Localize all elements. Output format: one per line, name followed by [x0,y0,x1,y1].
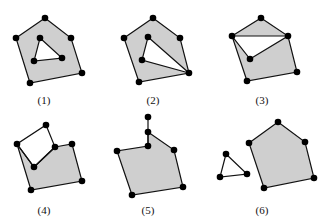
figure-label-4: (4) [38,204,51,216]
vertex-dot [223,151,230,158]
figure-label-1: (1) [38,94,51,106]
vertex-dot [31,164,38,171]
figure-label-5: (5) [142,204,155,216]
vertex-dot [186,70,193,77]
vertex-dot [59,55,66,62]
vertex-dot [79,178,86,185]
vertex-dot [145,114,152,121]
figure-1-region [16,18,82,83]
figure-5-region [117,132,183,195]
vertex-dot [275,119,282,126]
vertex-dot [69,141,76,148]
vertex-dot [42,15,49,22]
vertex-dot [217,174,224,181]
vertex-dot [145,143,152,150]
vertex-dot [27,80,34,87]
vertex-dot [258,15,265,22]
vertex-dot [150,15,157,22]
vertex-dot [229,33,236,40]
polygon-diagram [0,0,328,224]
vertex-dot [247,56,254,63]
figure-2-region [124,18,189,82]
vertex-dot [171,147,178,154]
vertex-dot [261,185,268,192]
vertex-dot [145,129,152,136]
vertex-dot [121,35,128,42]
vertex-dot [52,144,59,151]
vertex-dot [145,34,152,41]
vertex-dot [285,33,292,40]
vertex-dot [79,70,86,77]
vertex-dot [244,171,251,178]
vertex-dot [294,69,301,76]
vertex-dot [180,184,187,191]
vertex-dot [246,140,253,147]
figure-6-region [249,122,314,188]
vertex-dot [14,141,21,148]
vertex-dot [244,78,251,85]
vertex-dot [136,79,143,86]
vertex-dot [13,35,20,42]
vertex-dot [43,122,50,129]
figure-label-6: (6) [256,204,269,216]
vertex-dot [31,58,38,65]
vertex-dot [129,192,136,199]
vertex-dot [68,35,75,42]
vertex-dot [37,35,44,42]
vertex-dot [139,57,146,64]
figure-label-3: (3) [256,94,269,106]
vertex-dot [114,148,121,155]
figure-label-2: (2) [147,94,160,106]
vertex-dot [28,187,35,194]
vertex-dot [177,35,184,42]
figure-6-triangle [220,154,247,177]
figure-3-region [232,18,297,81]
vertex-dot [302,139,309,146]
vertex-dot [311,175,318,182]
